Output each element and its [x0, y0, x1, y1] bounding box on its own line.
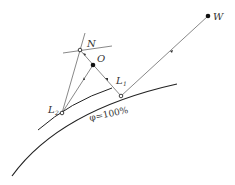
- point-l1: [119, 94, 123, 98]
- line-l2-o: [62, 65, 93, 113]
- point-l2: [60, 111, 64, 115]
- label-l2: L: [47, 104, 55, 115]
- label-n: N: [86, 38, 97, 49]
- line-w-l1: [121, 16, 208, 96]
- point-n: [78, 48, 82, 52]
- ternary-phase-diagram: W N O L 1 L 2 φ=100%: [0, 0, 235, 185]
- saturation-curve: [12, 84, 177, 176]
- arrow-l1-o: [105, 78, 108, 81]
- point-o: [91, 63, 96, 68]
- label-w: W: [213, 11, 224, 22]
- label-phi: φ=100%: [88, 105, 129, 123]
- label-l1: L: [115, 75, 123, 86]
- label-l1-subscript: 1: [123, 80, 127, 87]
- point-w: [206, 14, 211, 19]
- label-o: O: [97, 53, 105, 64]
- label-l2-subscript: 2: [54, 109, 59, 116]
